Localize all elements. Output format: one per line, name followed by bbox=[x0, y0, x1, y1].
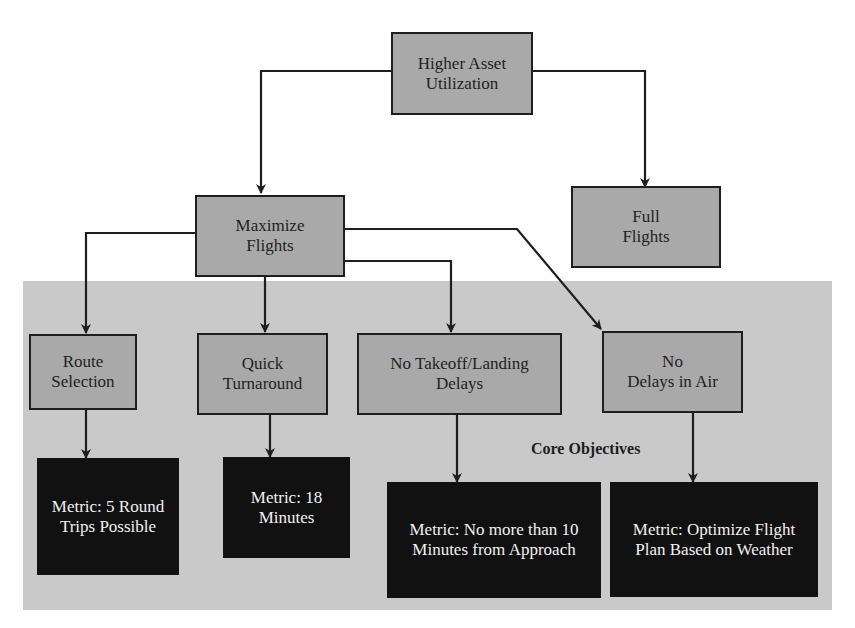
node-higher-asset-utilization: Higher Asset Utilization bbox=[391, 32, 533, 115]
edge-root-to-maximize bbox=[261, 71, 391, 193]
metric-quick-turnaround: Metric: 18 Minutes bbox=[223, 457, 350, 558]
metric-route-selection: Metric: 5 Round Trips Possible bbox=[37, 458, 179, 575]
metric-no-delays-in-air: Metric: Optimize Flight Plan Based on We… bbox=[610, 482, 818, 597]
core-objectives-label: Core Objectives bbox=[531, 440, 640, 458]
node-full-flights: Full Flights bbox=[571, 186, 721, 268]
node-no-takeoff-landing-delays: No Takeoff/Landing Delays bbox=[357, 333, 562, 415]
node-no-delays-in-air: No Delays in Air bbox=[602, 331, 743, 413]
edge-maximize-to-takeoff bbox=[344, 261, 451, 332]
node-quick-turnaround: Quick Turnaround bbox=[197, 333, 328, 415]
edge-maximize-to-air bbox=[344, 229, 601, 329]
node-route-selection: Route Selection bbox=[29, 334, 137, 410]
metric-no-takeoff-landing-delays: Metric: No more than 10 Minutes from App… bbox=[387, 482, 601, 598]
edge-root-to-full bbox=[531, 71, 645, 187]
edge-maximize-to-route bbox=[86, 233, 196, 333]
node-maximize-flights: Maximize Flights bbox=[195, 195, 345, 277]
